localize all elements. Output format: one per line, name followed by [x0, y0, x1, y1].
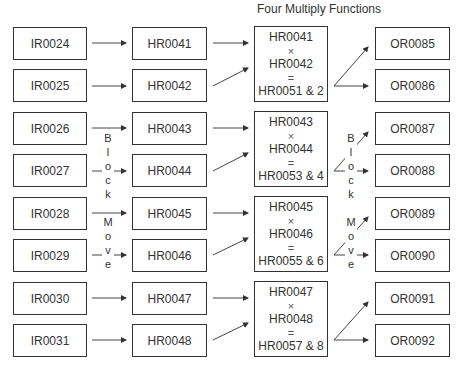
multiply-block: HR0047 × HR0048 = HR0057 & 8	[254, 281, 328, 357]
holding-register-box: HR0041	[132, 27, 207, 60]
output-register-box: OR0088	[375, 154, 450, 187]
input-register-box: IR0029	[13, 239, 87, 272]
input-register-box: IR0030	[13, 282, 87, 315]
multiply-sign: ×	[288, 300, 294, 312]
operand-b: HR0046	[269, 227, 313, 242]
input-register-box: IR0024	[13, 27, 87, 60]
multiply-block: HR0041 × HR0042 = HR0051 & 2	[254, 26, 328, 102]
operand-a: HR0045	[269, 200, 313, 215]
holding-register-box: HR0045	[132, 197, 207, 230]
output-register-box: OR0091	[375, 282, 450, 315]
input-register-box: IR0025	[13, 69, 87, 102]
result: HR0057 & 8	[258, 339, 323, 354]
holding-register-box: HR0044	[132, 154, 207, 187]
output-register-box: OR0086	[375, 69, 450, 102]
move-label-right: M o v e	[345, 215, 357, 271]
input-register-box: IR0031	[13, 324, 87, 357]
operand-b: HR0044	[269, 142, 313, 157]
move-label-left: M o v e	[102, 215, 114, 271]
output-register-box: OR0090	[375, 239, 450, 272]
operand-a: HR0047	[269, 285, 313, 300]
multiply-block: HR0045 × HR0046 = HR0055 & 6	[254, 196, 328, 272]
holding-register-box: HR0048	[132, 324, 207, 357]
input-register-box: IR0026	[13, 112, 87, 145]
multiply-block: HR0043 × HR0044 = HR0053 & 4	[254, 111, 328, 187]
block-label-left: B l o c k	[102, 131, 114, 201]
input-register-box: IR0028	[13, 197, 87, 230]
output-register-box: OR0085	[375, 27, 450, 60]
equals-sign: =	[288, 72, 294, 84]
equals-sign: =	[288, 242, 294, 254]
holding-register-box: HR0043	[132, 112, 207, 145]
operand-a: HR0043	[269, 115, 313, 130]
result: HR0051 & 2	[258, 84, 323, 99]
holding-register-box: HR0046	[132, 239, 207, 272]
output-register-box: OR0089	[375, 197, 450, 230]
input-register-box: IR0027	[13, 154, 87, 187]
operand-a: HR0041	[269, 30, 313, 45]
holding-register-box: HR0042	[132, 69, 207, 102]
multiply-sign: ×	[288, 215, 294, 227]
holding-register-box: HR0047	[132, 282, 207, 315]
multiply-sign: ×	[288, 130, 294, 142]
result: HR0053 & 4	[258, 169, 323, 184]
operand-b: HR0048	[269, 312, 313, 327]
block-label-right: B l o c k	[345, 131, 357, 201]
equals-sign: =	[288, 327, 294, 339]
output-register-box: OR0087	[375, 112, 450, 145]
result: HR0055 & 6	[258, 254, 323, 269]
output-register-box: OR0092	[375, 324, 450, 357]
operand-b: HR0042	[269, 57, 313, 72]
multiply-sign: ×	[288, 45, 294, 57]
equals-sign: =	[288, 157, 294, 169]
